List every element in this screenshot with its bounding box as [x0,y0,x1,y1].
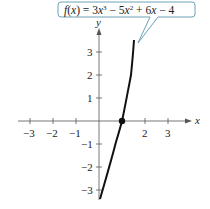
x-axis-arrow-icon [185,119,192,124]
function-graph: f(x) = 3x3 − 5x2 + 6x − 4 −3 −2 −1 2 3 3… [0,0,210,209]
svg-text:−2: −2 [46,127,58,139]
axes [18,32,188,200]
svg-text:3: 3 [87,46,93,58]
x-axis-label: x [194,114,200,126]
y-axis-arrow-icon [97,28,102,35]
svg-text:2: 2 [142,127,148,139]
root-point [119,118,125,124]
svg-text:−2: −2 [81,161,93,173]
function-curve [100,40,134,199]
svg-text:1: 1 [87,92,93,104]
y-axis-label: y [95,16,101,28]
svg-text:2: 2 [87,69,93,81]
formula-text: f(x) = 3x3 − 5x2 + 6x − 4 [64,4,175,17]
svg-text:−1: −1 [69,127,81,139]
svg-text:−1: −1 [81,138,93,150]
svg-text:−3: −3 [81,184,93,196]
x-tick-labels: −3 −2 −1 2 3 [23,127,171,139]
svg-text:−3: −3 [23,127,35,139]
svg-text:3: 3 [165,127,171,139]
formula-callout: f(x) = 3x3 − 5x2 + 6x − 4 [58,2,195,43]
